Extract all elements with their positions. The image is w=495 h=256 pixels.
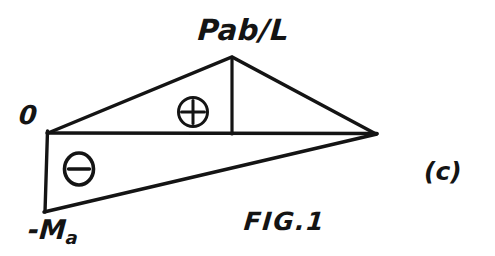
- part-label: (c): [424, 159, 462, 184]
- origin-label: 0: [18, 102, 38, 128]
- bending-moment-figure: Pab/L 0 -Ma FIG.1 (c): [0, 0, 495, 256]
- figure-caption: FIG.1: [243, 209, 326, 234]
- circled-minus-icon: [65, 153, 94, 185]
- negative-moment-subscript: a: [65, 227, 79, 248]
- left-support-ordinate-line: [45, 131, 48, 212]
- positive-moment-triangle: [48, 57, 376, 134]
- baseline-axis: [47, 133, 377, 134]
- peak-moment-label: Pab/L: [197, 16, 290, 45]
- negative-moment-main: -M: [27, 214, 67, 245]
- circled-plus-icon: [179, 98, 208, 127]
- negative-moment-label: -Ma: [27, 216, 79, 247]
